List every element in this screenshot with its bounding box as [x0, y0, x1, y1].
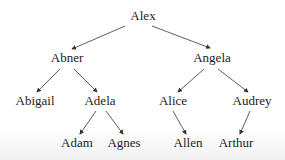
node-allen: Allen: [174, 135, 203, 151]
node-agnes: Agnes: [107, 135, 140, 151]
node-alice: Alice: [159, 93, 187, 109]
edge-adela-agnes: [106, 111, 123, 134]
node-alex: Alex: [130, 8, 155, 24]
node-abigail: Abigail: [16, 93, 55, 109]
edge-alice-allen: [173, 111, 186, 134]
node-arthur: Arthur: [219, 135, 254, 151]
edge-alex-abner: [72, 26, 125, 49]
node-abner: Abner: [51, 50, 84, 66]
edge-alex-angela: [152, 26, 210, 48]
node-adela: Adela: [84, 93, 115, 109]
edge-abner-adela: [74, 69, 97, 92]
edge-angela-alice: [178, 69, 204, 92]
node-audrey: Audrey: [233, 93, 272, 109]
edge-abner-abigail: [37, 69, 60, 92]
edge-audrey-arthur: [240, 111, 250, 134]
edge-angela-audrey: [218, 69, 248, 92]
edge-adela-adam: [80, 111, 96, 134]
node-adam: Adam: [61, 135, 93, 151]
node-angela: Angela: [193, 50, 231, 66]
